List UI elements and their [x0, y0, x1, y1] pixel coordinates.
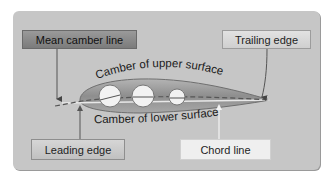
thickness-circle-2: [132, 85, 154, 107]
chord-line-label: Chord line: [180, 139, 271, 160]
camber-upper-label: Camber of upper surface: [94, 57, 225, 81]
trailing-edge-leader: [262, 49, 267, 97]
mean-camber-line-label: Mean camber line: [22, 30, 137, 49]
leading-edge-label: Leading edge: [31, 139, 125, 160]
trailing-edge-label: Trailing edge: [222, 30, 311, 49]
thickness-circle-3: [169, 89, 185, 105]
